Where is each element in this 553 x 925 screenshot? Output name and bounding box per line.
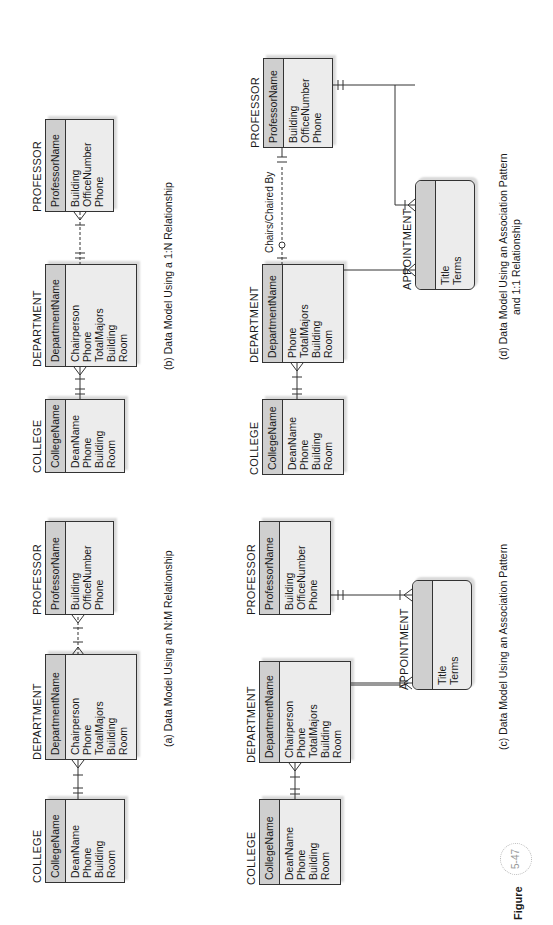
entity-attrs: DeanName Phone Building Room (283, 400, 337, 474)
entity-key: DepartmentName (263, 265, 283, 362)
entity-attrs: Phone TotalMajors Building Room (283, 265, 337, 362)
entity-attrs: DeanName Phone Building Room (66, 400, 120, 472)
entity-key (413, 581, 433, 689)
entity-title: DEPARTMENT (31, 683, 43, 760)
entity-attrs: Chairperson Phone TotalMajors Building R… (280, 662, 346, 762)
entity-title: COLLEGE (245, 832, 257, 885)
entity-title: PROFESSOR (245, 544, 257, 615)
entity-attrs: Chairperson Phone TotalMajors Building R… (66, 265, 132, 366)
figure-number-badge: 5-47 (500, 843, 532, 875)
caption-c: (c) Data Model Using an Association Patt… (497, 544, 509, 750)
entity-title: COLLEGE (31, 420, 43, 473)
entity-attrs: Building OfficeNumber Phone (280, 522, 322, 614)
entity-key: CollegeName (260, 800, 280, 884)
entity-key: DepartmentName (260, 662, 280, 762)
entity-attrs: Chairperson Phone TotalMajors Building R… (66, 655, 132, 759)
entity-attrs: DeanName Phone Building Room (280, 800, 334, 884)
entity-title: DEPARTMENT (245, 686, 257, 763)
entity-key: CollegeName (263, 400, 283, 474)
entity-attrs: Title Terms (433, 581, 463, 689)
caption-d-line2: and 1:1 Relationship (510, 219, 522, 315)
entity-key: CollegeName (46, 800, 66, 882)
entity-title: PROFESSOR (31, 544, 43, 615)
entity-title: DEPARTMENT (248, 286, 260, 363)
entity-title: COLLEGE (31, 830, 43, 883)
caption-b: (b) Data Model Using a 1:N Relationship (162, 182, 174, 370)
entity-attrs: DeanName Phone Building Room (66, 800, 120, 882)
entity-key: ProfessorName (260, 522, 280, 614)
entity-title: APPOINTMENT (398, 608, 410, 690)
figure-canvas: COLLEGE CollegeName DeanName Phone Build… (0, 0, 553, 925)
entity-title: PROFESSOR (249, 77, 261, 148)
entity-key: DepartmentName (46, 655, 66, 759)
entity-key: DepartmentName (46, 265, 66, 366)
caption-d-line1: (d) Data Model Using an Association Patt… (497, 153, 509, 360)
entity-key: ProfessorName (46, 120, 66, 211)
entity-title: PROFESSOR (31, 141, 43, 212)
entity-title: COLLEGE (248, 422, 260, 475)
entity-key: CollegeName (46, 400, 66, 472)
entity-key (416, 181, 436, 289)
entity-attrs: Building OfficeNumber Phone (66, 522, 108, 614)
figure-label: Figure (512, 886, 524, 920)
entity-title: APPOINTMENT (401, 208, 413, 290)
entity-title: DEPARTMENT (31, 290, 43, 367)
caption-a: (a) Data Model Using an N:M Relationship (162, 550, 174, 747)
entity-key: ProfessorName (264, 59, 284, 147)
entity-attrs: Building OfficeNumber Phone (66, 120, 108, 211)
entity-key: ProfessorName (46, 522, 66, 614)
entity-attrs: Building OfficeNumber Phone (284, 59, 326, 147)
entity-attrs: Title Terms (436, 181, 466, 289)
relationship-label-chairs: Chairs/Chaired By (264, 172, 275, 253)
